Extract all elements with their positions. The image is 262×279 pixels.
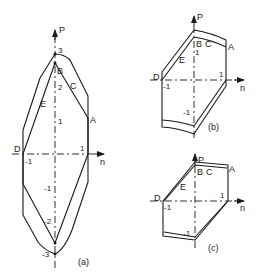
tick-n-neg1: -1 bbox=[164, 203, 172, 212]
point-e-label: E bbox=[40, 99, 46, 109]
n-axis-label: n bbox=[240, 83, 245, 93]
p-axis-label: P bbox=[198, 155, 204, 165]
point-a-label: A bbox=[228, 42, 234, 52]
tick-neg3: -3 bbox=[42, 250, 50, 259]
point-c-label: C bbox=[70, 81, 77, 91]
inner-polygon-a bbox=[23, 63, 88, 243]
tick-neg1: -1 bbox=[44, 184, 52, 193]
tick-neg1: -1 bbox=[183, 108, 191, 117]
point-d-label: D bbox=[153, 72, 160, 82]
point-e-label: E bbox=[179, 55, 185, 65]
point-a-label: A bbox=[90, 115, 96, 125]
point-d-label: D bbox=[154, 193, 161, 203]
tick-n-neg1: -1 bbox=[25, 157, 33, 166]
point-c-label: C bbox=[206, 167, 213, 177]
point-c-label: C bbox=[205, 39, 212, 49]
n-axis-label: n bbox=[100, 157, 105, 167]
point-b-label: B bbox=[196, 39, 202, 49]
caption-b: (b) bbox=[208, 122, 219, 132]
p-axis-label: P bbox=[197, 12, 203, 22]
p-axis-label: P bbox=[59, 25, 65, 35]
tick-1: 1 bbox=[58, 117, 63, 126]
point-e-label: E bbox=[180, 182, 186, 192]
tick-n-1: 1 bbox=[219, 70, 224, 79]
interaction-diagrams: P n 3 2 1 -1 -2 -3 -1 1 B C A E D (a) P … bbox=[0, 0, 262, 279]
tick-1: 1 bbox=[195, 48, 200, 57]
point-a-label: A bbox=[229, 164, 235, 174]
tick-2: 2 bbox=[58, 83, 63, 92]
tick-3: 3 bbox=[58, 46, 63, 55]
tick-n-neg1: -1 bbox=[163, 82, 171, 91]
caption-c: (c) bbox=[208, 243, 219, 253]
point-b-label: B bbox=[197, 167, 203, 177]
tick-neg2: -2 bbox=[44, 217, 52, 226]
panel-b: P n 1 -1 -1 1 B C A E D (b) bbox=[150, 12, 245, 138]
panel-a: P n 3 2 1 -1 -2 -3 -1 1 B C A E D (a) bbox=[12, 25, 105, 268]
point-b-label: B bbox=[57, 66, 63, 76]
panel-c: P n -1 -1 1 B C A E D (c) bbox=[150, 154, 245, 253]
tick-n-1: 1 bbox=[80, 144, 85, 153]
n-axis-label: n bbox=[240, 203, 245, 213]
caption-a: (a) bbox=[78, 257, 89, 267]
tick-neg1: -1 bbox=[183, 229, 191, 238]
tick-n-1: 1 bbox=[220, 191, 225, 200]
point-d-label: D bbox=[14, 144, 21, 154]
